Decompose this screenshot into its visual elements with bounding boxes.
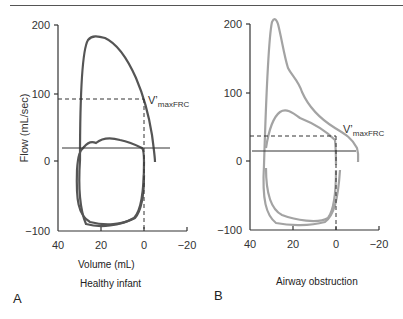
- svg-text:−20: −20: [370, 238, 389, 250]
- svg-text:40: 40: [52, 239, 64, 251]
- charts: 200 100 0 −100 40 20 0 −20 Flow (mL/sec)…: [0, 0, 403, 319]
- svg-text:Flow (mL/sec): Flow (mL/sec): [18, 93, 30, 162]
- svg-text:V’maxFRC: V’maxFRC: [343, 123, 385, 138]
- svg-text:20: 20: [287, 238, 299, 250]
- svg-text:0: 0: [333, 238, 339, 250]
- svg-text:20: 20: [95, 239, 107, 251]
- svg-text:100: 100: [32, 88, 50, 100]
- svg-text:200: 200: [32, 19, 50, 31]
- svg-text:−100: −100: [217, 224, 242, 236]
- svg-text:V’maxFRC: V’maxFRC: [148, 94, 190, 109]
- svg-text:40: 40: [244, 238, 256, 250]
- panel-a-curves: [77, 36, 155, 226]
- caption-a: Healthy infant: [80, 278, 141, 289]
- x-axis-label: Volume (mL): [78, 259, 135, 270]
- svg-text:0: 0: [141, 239, 147, 251]
- svg-text:0: 0: [236, 155, 242, 167]
- svg-text:100: 100: [224, 87, 242, 99]
- svg-text:−100: −100: [25, 225, 50, 237]
- caption-b: Airway obstruction: [276, 276, 358, 287]
- svg-text:−20: −20: [178, 239, 197, 251]
- panel-a-axes: [54, 25, 187, 231]
- panel-letter-a: A: [13, 291, 22, 306]
- panel-letter-b: B: [214, 288, 223, 303]
- svg-text:200: 200: [224, 18, 242, 30]
- svg-text:0: 0: [44, 155, 50, 167]
